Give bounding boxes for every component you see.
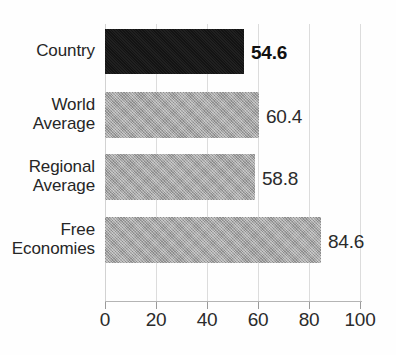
bar-free-economies[interactable] xyxy=(105,217,321,263)
value-label-world-average: 60.4 xyxy=(266,107,302,126)
xtick-20 xyxy=(156,302,157,309)
xtick-label-0: 0 xyxy=(100,309,110,331)
xtick-label-40: 40 xyxy=(197,309,218,331)
value-label-regional-average: 58.8 xyxy=(262,169,298,188)
category-label-line: Free xyxy=(3,220,95,239)
category-label-line: World xyxy=(3,95,95,114)
plot-area xyxy=(105,24,362,302)
bar-regional-average[interactable] xyxy=(105,154,255,200)
bar-world-average[interactable] xyxy=(105,92,259,138)
xtick-label-100: 100 xyxy=(344,309,375,331)
category-label-line: Regional xyxy=(3,157,95,176)
xtick-80 xyxy=(309,302,310,309)
bar-chart: Country World Average Regional Average F… xyxy=(0,0,396,355)
x-axis-tick-labels: 0 20 40 60 80 100 xyxy=(0,309,396,335)
xtick-100 xyxy=(360,302,361,309)
x-axis-line xyxy=(105,301,362,302)
xtick-label-80: 80 xyxy=(299,309,320,331)
chart-title-cropped xyxy=(0,0,396,11)
value-label-free-economies: 84.6 xyxy=(328,232,364,251)
category-label-country: Country xyxy=(3,41,95,60)
value-label-country: 54.6 xyxy=(251,43,287,62)
category-label-regional-average: Regional Average xyxy=(3,157,95,195)
gridline-100 xyxy=(360,24,361,302)
category-label-world-average: World Average xyxy=(3,95,95,133)
xtick-60 xyxy=(258,302,259,309)
xtick-label-20: 20 xyxy=(146,309,167,331)
xtick-label-60: 60 xyxy=(248,309,269,331)
category-label-line: Country xyxy=(3,41,95,60)
category-label-free-economies: Free Economies xyxy=(3,220,95,258)
category-label-line: Average xyxy=(3,176,95,195)
category-label-line: Average xyxy=(3,114,95,133)
category-label-line: Economies xyxy=(3,239,95,258)
bar-country[interactable] xyxy=(105,29,244,74)
xtick-40 xyxy=(207,302,208,309)
xtick-0 xyxy=(105,302,106,309)
